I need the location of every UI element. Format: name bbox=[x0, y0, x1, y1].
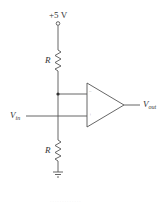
opamp-triangle bbox=[87, 83, 124, 127]
circuit-diagram bbox=[0, 0, 164, 203]
noninverting-sign: + bbox=[89, 112, 92, 117]
resistor-top bbox=[55, 50, 61, 71]
footer-faint-text: · · · · · · · · · · · · · bbox=[50, 199, 81, 203]
vout-label: Vout bbox=[143, 100, 156, 109]
resistor-bottom bbox=[55, 140, 61, 161]
supply-terminal bbox=[56, 22, 60, 26]
vin-label: Vin bbox=[10, 111, 20, 120]
junction-dot bbox=[56, 92, 59, 95]
resistor-bottom-label: R bbox=[45, 146, 51, 155]
inverting-sign: − bbox=[89, 89, 92, 94]
resistor-top-label: R bbox=[45, 56, 51, 65]
supply-label: +5 V bbox=[49, 11, 67, 20]
